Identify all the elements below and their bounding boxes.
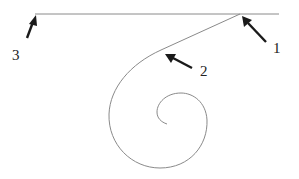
arrow-2-icon: [165, 54, 192, 68]
label-2: 2: [200, 63, 208, 79]
label-3: 3: [12, 47, 20, 63]
arrow-3-icon: [27, 15, 37, 38]
label-1: 1: [273, 40, 281, 56]
arrow-1-icon: [242, 16, 266, 42]
spiral-diagram: 3 1 2: [0, 0, 299, 179]
tangent-and-spiral-curve: [109, 14, 240, 168]
